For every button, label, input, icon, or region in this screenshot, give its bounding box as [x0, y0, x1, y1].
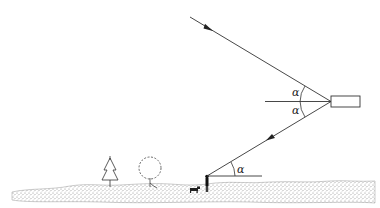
- reflector: [331, 96, 360, 107]
- reflection-diagram: α α α: [0, 0, 380, 208]
- diagram-canvas: α α α: [0, 0, 380, 208]
- angle-label-upper: α: [292, 86, 300, 99]
- ground: [12, 181, 375, 203]
- angle-arc-observer: [231, 162, 235, 176]
- angle-label-lower: α: [292, 104, 300, 117]
- angle-label-ground: α: [237, 163, 245, 176]
- reflected-arrowhead-icon: [266, 134, 275, 141]
- conifer-tree: [102, 156, 118, 187]
- incident-arrowhead-icon: [204, 24, 214, 31]
- deciduous-tree: [139, 157, 161, 188]
